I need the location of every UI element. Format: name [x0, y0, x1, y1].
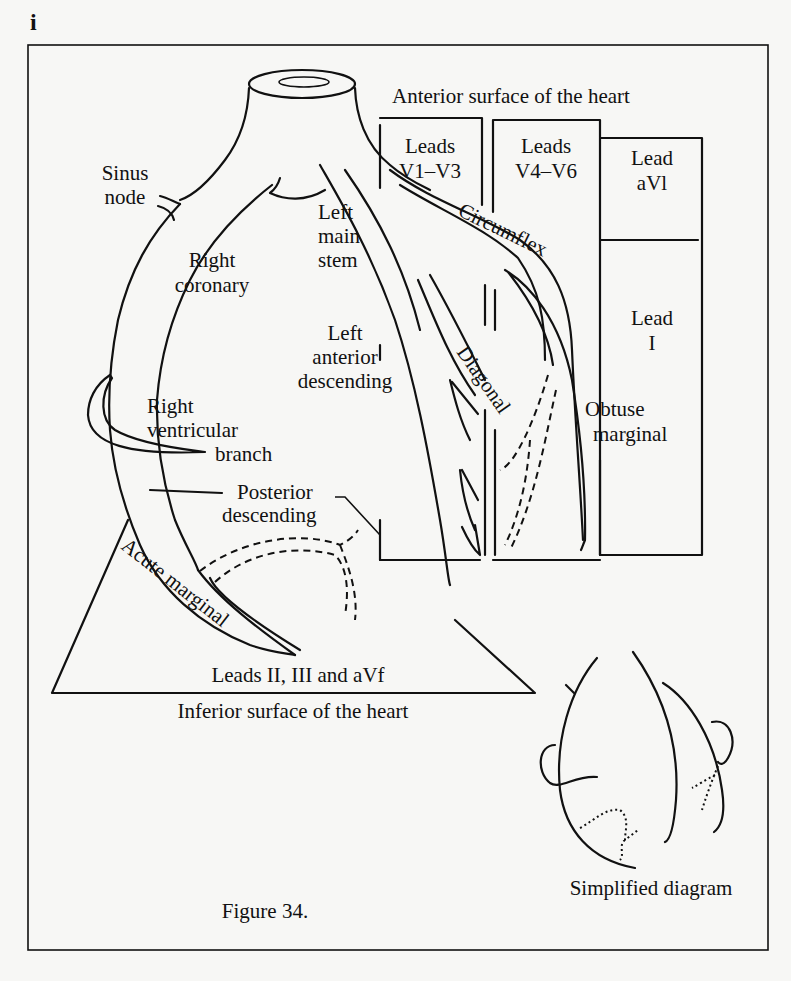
lad-side-branches — [450, 380, 480, 555]
leads-v4-v6-label: Leads — [521, 134, 571, 158]
inferior-surface-label: Inferior surface of the heart — [178, 699, 409, 723]
rv-branch-label-3: branch — [215, 442, 273, 466]
lead-avl-name: aVl — [637, 171, 667, 195]
figure-caption: Figure 34. — [222, 899, 308, 923]
lad-label-3: descending — [298, 369, 393, 393]
rv-branch-label-1: Right — [147, 394, 194, 418]
lad-label-2: anterior — [312, 345, 377, 369]
acute-marginal-label: Acute marginal — [117, 533, 234, 632]
sinus-node-label-2: node — [105, 185, 146, 209]
left-main-stem-label-1: Left — [318, 200, 353, 224]
obtuse-marginal-label-2: marginal — [593, 422, 667, 446]
posterior-descending-branch — [150, 490, 222, 493]
anterior-surface-label: Anterior surface of the heart — [392, 84, 630, 108]
simplified-diagram — [541, 652, 733, 868]
leads-v4-v6-range: V4–V6 — [515, 159, 577, 183]
right-coronary-label-2: coronary — [175, 273, 250, 297]
posterior-descending-label-2: descending — [222, 503, 317, 527]
simplified-diagram-label: Simplified diagram — [570, 876, 733, 900]
obtuse-marginal-artery — [505, 270, 585, 550]
left-main-stem-label-2: main — [318, 224, 360, 248]
obtuse-marginal-label-1: Obtuse — [585, 397, 645, 421]
diagonal-label: Diagonal — [452, 341, 516, 418]
right-coronary-label-1: Right — [189, 248, 236, 272]
leads-v1-v3-range: V1–V3 — [399, 159, 461, 183]
inferior-leads-label: Leads II, III and aVf — [211, 663, 384, 687]
lad-label-1: Left — [328, 321, 363, 345]
posterior-descending-leader — [335, 497, 380, 535]
left-main-stem-label-3: stem — [318, 248, 358, 272]
circumflex-label: Circumflex — [455, 198, 552, 262]
posterior-descending-label-1: Posterior — [237, 480, 313, 504]
leads-v1-v3-label: Leads — [405, 134, 455, 158]
lead-avl-label: Lead — [631, 146, 673, 170]
coronary-artery-diagram: i — [0, 0, 791, 981]
sinus-node-label-1: Sinus — [102, 161, 149, 185]
lead-i-label: Lead — [631, 306, 673, 330]
lead-i-name: I — [649, 331, 656, 355]
rv-branch-label-2: ventricular — [147, 418, 238, 442]
section-marker: i — [30, 9, 37, 35]
